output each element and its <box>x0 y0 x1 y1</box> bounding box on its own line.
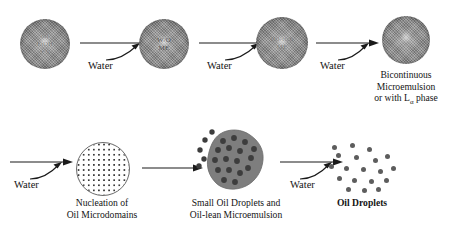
stage-3-sphere: Oil-rich ME <box>256 17 308 69</box>
diagram-canvas: oil EtOH + S Water W/O ME Water <box>0 0 458 226</box>
oil-droplet <box>336 153 341 158</box>
oil-droplet <box>384 178 389 183</box>
stage-2-sphere: W/O ME <box>139 19 189 69</box>
stage-3-inner-line-1: Oil-rich <box>271 35 293 43</box>
oil-droplet <box>332 145 337 150</box>
arrow-3 <box>316 36 380 62</box>
stage-1-inner-line-2: EtOH <box>37 40 53 48</box>
oil-droplet <box>373 158 378 163</box>
arrow-4 <box>10 155 74 181</box>
stage-5-dotted-circle <box>76 142 130 196</box>
oil-droplet <box>367 147 372 152</box>
stage-4-caption-line-2: Microemulsion <box>346 81 458 93</box>
stage-2-inner-line-2: ME <box>159 44 170 53</box>
oil-droplet <box>378 169 383 174</box>
stage-3-inner-label: Oil-rich ME <box>256 17 308 69</box>
stage-2-inner-line-1: W/O <box>157 36 171 45</box>
stage-4-caption-line-1: Bicontinuous <box>346 69 458 81</box>
stage-6-blob <box>196 126 272 196</box>
stage-6-caption-line-1: Small Oil Droplets and <box>180 197 292 209</box>
stage-7-droplet-cluster <box>326 142 398 194</box>
oil-microdomain-grid <box>76 142 130 196</box>
oil-droplet <box>329 164 334 169</box>
stage-6-caption-line-2: Oil-lean Microemulsion <box>180 209 292 221</box>
stage-7-caption: Oil Droplets <box>312 197 412 209</box>
arrow-5 <box>142 161 204 175</box>
oil-droplet <box>346 187 351 192</box>
arrow-6-label: Water <box>290 179 315 191</box>
stage-5-caption-line-1: Nucleation of <box>52 197 152 209</box>
arrow-1-label: Water <box>88 60 113 72</box>
stage-5-caption-line-2: Oil Microdomains <box>52 209 152 221</box>
oil-droplet <box>352 178 357 183</box>
arrow-3-label: Water <box>320 60 345 72</box>
oil-droplet <box>391 166 396 171</box>
stage-7-caption-line-1: Oil Droplets <box>312 197 412 209</box>
stage-1-inner-line-1: oil <box>41 32 48 40</box>
stage-5-caption: Nucleation of Oil Microdomains <box>52 197 152 220</box>
arrow-2-label: Water <box>207 60 232 72</box>
oil-droplet <box>361 167 366 172</box>
oil-droplet <box>369 179 374 184</box>
stage-6-caption: Small Oil Droplets and Oil-lean Microemu… <box>180 197 292 220</box>
stage-1-inner-label: oil EtOH + S <box>20 19 70 69</box>
stage-1-sphere: oil EtOH + S <box>20 19 70 69</box>
oil-droplet <box>362 188 367 193</box>
oil-droplet <box>385 154 390 159</box>
arrow-4-label: Water <box>14 179 39 191</box>
stage-4-caption: Bicontinuous Microemulsion or with Lα ph… <box>346 69 458 104</box>
stage-4-caption-line-3: or with Lα phase <box>346 92 458 104</box>
oil-droplet <box>350 143 355 148</box>
stage-3-inner-line-2: ME <box>277 43 287 51</box>
oil-droplet <box>344 166 349 171</box>
oil-droplet <box>376 187 381 192</box>
oil-droplet <box>337 176 342 181</box>
stage-4-sphere <box>382 16 430 64</box>
stage-1-inner-line-3: + S <box>40 48 50 56</box>
stage-2-inner-label: W/O ME <box>139 19 189 69</box>
oil-droplet <box>354 155 359 160</box>
